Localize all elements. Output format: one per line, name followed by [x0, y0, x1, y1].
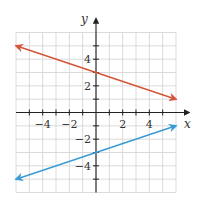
- y-axis-label: y: [80, 12, 88, 26]
- y-tick-label: 4: [84, 53, 91, 66]
- coordinate-plane-chart: −4−22442−2−4 x y: [0, 0, 197, 200]
- y-tick-label: −2: [75, 133, 91, 146]
- x-tick-label: 2: [119, 118, 126, 131]
- x-tick-label: −4: [35, 118, 51, 131]
- x-tick-label: 4: [146, 118, 153, 131]
- x-tick-label: −2: [61, 118, 77, 131]
- x-axis-label: x: [184, 117, 191, 131]
- y-tick-label: −4: [75, 160, 91, 173]
- y-tick-label: 2: [84, 80, 91, 93]
